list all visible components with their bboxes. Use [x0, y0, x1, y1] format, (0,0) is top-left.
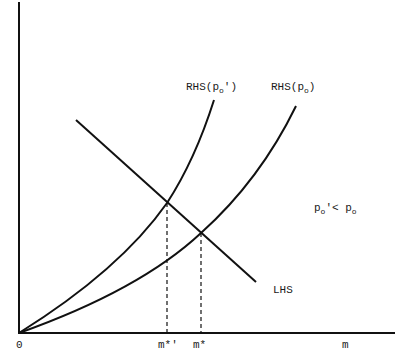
lhs-line — [76, 120, 256, 282]
m-star-label: m* — [193, 339, 206, 351]
rhs-po-label: RHS(po) — [271, 81, 315, 95]
rhs-po-prime-curve — [19, 100, 214, 333]
rhs-po-prime-label: RHS(po') — [186, 81, 237, 95]
m-star-prime-label: m*' — [158, 339, 178, 351]
rhs-po-curve — [19, 106, 296, 333]
lhs-label: LHS — [273, 284, 293, 296]
price-comparison-annotation: po'< po — [314, 202, 357, 216]
origin-label: 0 — [16, 339, 23, 351]
x-axis-label: m — [342, 339, 349, 351]
diagram-canvas: RHS(po') RHS(po) LHS po'< po 0 m*' m* m — [0, 0, 409, 364]
